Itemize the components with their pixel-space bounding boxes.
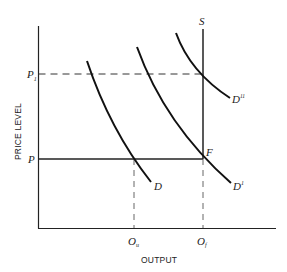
demand-d2-label: D11 bbox=[231, 93, 245, 105]
point-f-label: F bbox=[205, 146, 213, 158]
demand-d-label: D bbox=[153, 180, 162, 192]
y-axis-label: PRICE LEVEL bbox=[13, 103, 23, 160]
diagram-canvas: S F D D1 D11 P1 P Ou Of OUTPUT PRICE LEV… bbox=[0, 0, 287, 272]
demand-curve-d bbox=[87, 61, 151, 182]
aggregate-supply-demand-diagram: S F D D1 D11 P1 P Ou Of OUTPUT PRICE LEV… bbox=[0, 0, 287, 272]
output-ou-label: Ou bbox=[128, 235, 139, 248]
supply-label: S bbox=[199, 15, 205, 27]
demand-d1-label: D1 bbox=[232, 180, 244, 192]
x-axis-label: OUTPUT bbox=[141, 255, 177, 265]
price-p-label: P bbox=[27, 153, 35, 165]
output-of-label: Of bbox=[197, 235, 208, 248]
demand-curve-d1 bbox=[137, 47, 231, 183]
price-p1-label: P1 bbox=[26, 68, 37, 82]
